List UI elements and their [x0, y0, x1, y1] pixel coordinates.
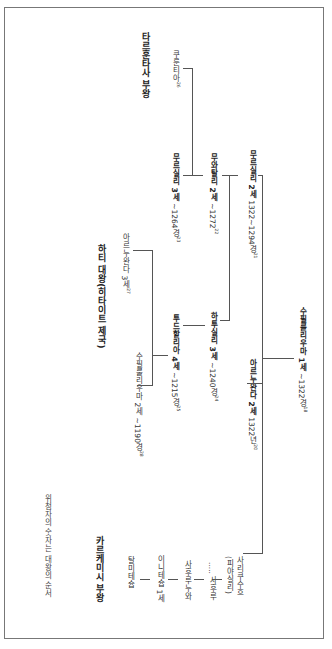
diagram-frame	[4, 7, 324, 639]
karkemish-sahurunuwa-pre: ..... 사후루	[207, 562, 216, 600]
king-arnuwanda-3: 아르누완다 3세27	[120, 233, 133, 294]
connector	[222, 175, 238, 176]
connector	[168, 579, 178, 580]
king-muwatalli-2: 무와탈리 2세 ~127222	[208, 153, 221, 234]
title-tarhuntassa: 타르훈타사 부왕	[140, 32, 149, 98]
king-arnuwanda-2: 아르누완다 2세 1322년20	[247, 359, 260, 450]
karkemish-ini-teshub-1: 이니테슙 1세	[155, 555, 164, 602]
connector	[133, 250, 153, 251]
connector	[262, 175, 263, 553]
king-mursili-2: 무르실리 2세 1322~1294경21	[247, 150, 260, 258]
king-suppiluliuma-1: 수필룰리우마 1세 ~1322경18	[297, 307, 310, 412]
connector	[212, 579, 222, 580]
king-tudhaliya-4: 투드할리아 4세 ~1215경25	[170, 314, 183, 411]
title-hatti: 하티 대왕(히타이트 제국)	[96, 244, 105, 349]
king-kurunta: 쿠룬티아26	[170, 50, 183, 88]
karkemish-sarri-kushuh: 사리쿠수흐(피야실리)	[223, 556, 243, 596]
connector	[137, 385, 153, 386]
connector	[194, 579, 204, 580]
connector	[183, 68, 193, 69]
king-mursili-3: 무르실리 3세 ~1264경23	[170, 153, 183, 242]
connector	[152, 355, 168, 356]
connector	[262, 358, 294, 359]
karkemish-sahurunuwa: 사후루누와	[182, 560, 191, 600]
title-karkemish: 카르케미시 부왕	[94, 536, 103, 602]
karkemish-talmi-teshub: 탈미테슙	[125, 556, 134, 588]
connector	[152, 250, 153, 385]
king-hattusili-3: 하투실리 3세 ~1240경24	[208, 312, 221, 401]
connector	[140, 579, 150, 580]
connector	[243, 553, 263, 554]
connector	[229, 175, 230, 320]
connector	[183, 175, 203, 176]
connector	[220, 320, 230, 321]
king-suppiluliuma-2: 수필룰리우마 2세 ~1190경28	[133, 352, 146, 457]
connector	[192, 68, 193, 175]
connector	[183, 325, 205, 326]
connector	[247, 383, 262, 384]
connector	[258, 175, 263, 176]
footnote: 위첨자의 숫자는 대왕의 순서	[42, 494, 51, 597]
